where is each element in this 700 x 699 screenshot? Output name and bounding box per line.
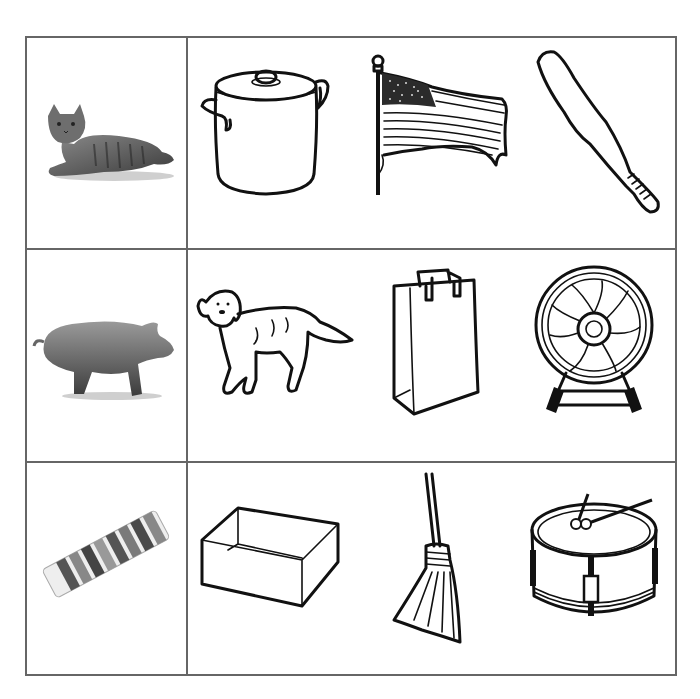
bag-image[interactable]: bag	[390, 268, 482, 418]
grid-border-right	[675, 36, 677, 676]
broom-image[interactable]: broom	[392, 472, 464, 644]
grid-row-divider-2	[25, 461, 677, 463]
flag-image[interactable]: flag	[372, 55, 512, 195]
pig-image[interactable]: pig	[32, 316, 176, 402]
fan-image[interactable]: fan	[532, 263, 656, 417]
box-image[interactable]: box	[198, 506, 340, 608]
dog-image[interactable]: dog	[196, 288, 356, 402]
grid-border-bottom	[25, 674, 677, 676]
gum-image[interactable]: gum	[38, 506, 174, 602]
bat-image[interactable]: bat	[534, 48, 666, 216]
pot-image[interactable]: pot	[200, 64, 332, 196]
drum-image[interactable]: drum	[526, 492, 662, 620]
cat-image[interactable]: cat	[44, 104, 176, 182]
